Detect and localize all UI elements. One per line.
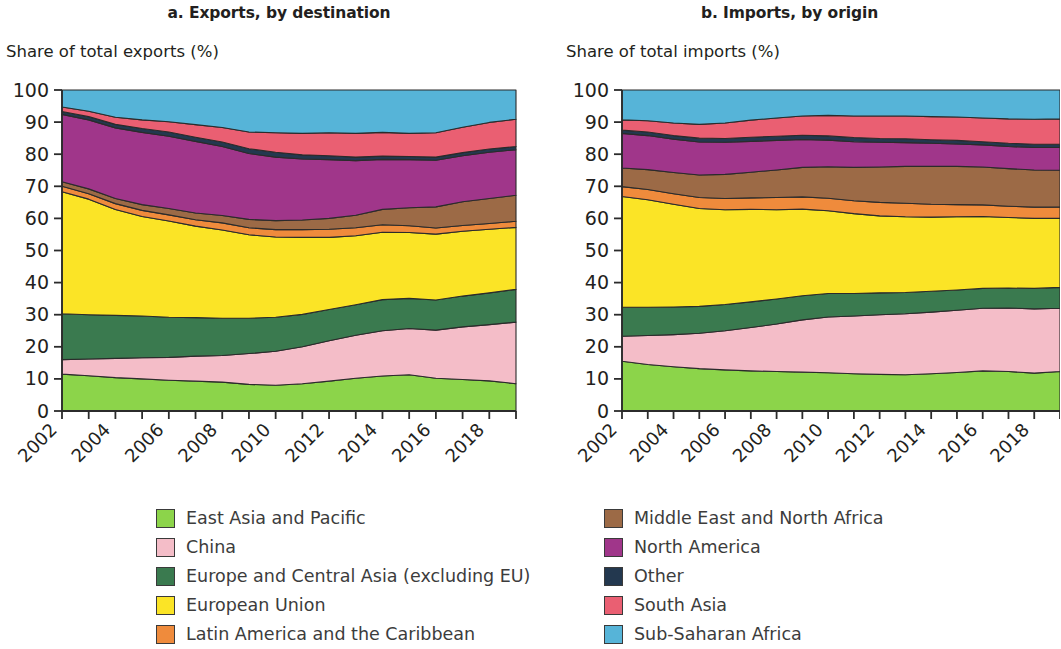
x-tick-label: 2010 <box>780 419 827 466</box>
legend-swatch-icon <box>604 567 623 586</box>
x-tick-label: 2016 <box>934 419 981 466</box>
x-tick-label: 2012 <box>281 419 328 466</box>
y-tick-label: 0 <box>597 400 609 422</box>
legend-item-label: Sub-Saharan Africa <box>634 626 802 644</box>
y-tick-label: 20 <box>25 335 49 357</box>
legend-item-label: Europe and Central Asia (excluding EU) <box>186 568 530 586</box>
y-tick-label: 30 <box>585 303 609 325</box>
panel-exports: a. Exports, by destination Share of tota… <box>0 0 540 500</box>
y-tick-label: 80 <box>25 143 49 165</box>
imports-area-chart: 0102030405060708090100200220042006200820… <box>560 78 1060 488</box>
x-tick-label: 2008 <box>174 419 221 466</box>
y-tick-label: 80 <box>585 143 609 165</box>
y-tick-label: 50 <box>585 239 609 261</box>
exports-area-chart: 0102030405060708090100200220042006200820… <box>0 78 530 488</box>
x-tick-label: 2004 <box>67 419 114 466</box>
x-tick-label: 2010 <box>227 419 274 466</box>
x-tick-label: 2018 <box>986 419 1033 466</box>
y-tick-label: 90 <box>585 111 609 133</box>
y-tick-label: 70 <box>585 175 609 197</box>
legend-item: Sub-Saharan Africa <box>604 620 884 649</box>
legend-swatch-icon <box>604 596 623 615</box>
panel-imports: b. Imports, by origin Share of total imp… <box>540 0 1061 500</box>
y-tick-label: 90 <box>25 111 49 133</box>
x-tick-label: 2014 <box>883 419 930 466</box>
legend-item: Europe and Central Asia (excluding EU) <box>156 562 530 591</box>
y-tick-label: 60 <box>585 207 609 229</box>
panel-imports-title: b. Imports, by origin <box>540 4 1061 22</box>
legend-item: South Asia <box>604 591 884 620</box>
y-tick-label: 0 <box>37 400 49 422</box>
legend-swatch-icon <box>156 567 175 586</box>
legend-item-label: Middle East and North Africa <box>634 510 884 528</box>
y-tick-label: 100 <box>573 79 609 101</box>
legend-swatch-icon <box>604 509 623 528</box>
y-tick-label: 100 <box>13 79 49 101</box>
legend-item-label: China <box>186 539 236 557</box>
legend-item-label: Other <box>634 568 684 586</box>
legend-column-left: East Asia and PacificChinaEurope and Cen… <box>156 504 530 649</box>
y-tick-label: 70 <box>25 175 49 197</box>
legend-swatch-icon <box>156 596 175 615</box>
panel-exports-title: a. Exports, by destination <box>0 4 540 22</box>
legend-swatch-icon <box>604 625 623 644</box>
legend-item: North America <box>604 533 884 562</box>
legend-swatch-icon <box>156 538 175 557</box>
panel-imports-axis-title: Share of total imports (%) <box>566 42 780 61</box>
legend-item-label: Latin America and the Caribbean <box>186 626 475 644</box>
panel-exports-axis-title: Share of total exports (%) <box>6 42 219 61</box>
x-tick-label: 2002 <box>14 419 61 466</box>
y-tick-label: 10 <box>25 367 49 389</box>
legend-item-label: South Asia <box>634 597 727 615</box>
legend-item: Middle East and North Africa <box>604 504 884 533</box>
chart-legend: East Asia and PacificChinaEurope and Cen… <box>0 500 1061 649</box>
x-tick-label: 2008 <box>728 419 775 466</box>
y-tick-label: 40 <box>25 271 49 293</box>
y-tick-label: 60 <box>25 207 49 229</box>
legend-item: European Union <box>156 591 530 620</box>
x-tick-label: 2014 <box>334 419 381 466</box>
legend-item-label: European Union <box>186 597 325 615</box>
legend-swatch-icon <box>156 509 175 528</box>
x-tick-label: 2012 <box>831 419 878 466</box>
x-tick-label: 2016 <box>387 419 434 466</box>
x-tick-label: 2018 <box>441 419 488 466</box>
panel-imports-plot: 0102030405060708090100200220042006200820… <box>560 78 1060 488</box>
y-tick-label: 30 <box>25 303 49 325</box>
legend-swatch-icon <box>156 625 175 644</box>
legend-item: East Asia and Pacific <box>156 504 530 533</box>
panel-exports-plot: 0102030405060708090100200220042006200820… <box>0 78 530 488</box>
x-tick-label: 2006 <box>120 419 167 466</box>
charts-container: a. Exports, by destination Share of tota… <box>0 0 1061 500</box>
legend-item: China <box>156 533 530 562</box>
x-tick-label: 2004 <box>625 419 672 466</box>
y-tick-label: 10 <box>585 367 609 389</box>
legend-item-label: North America <box>634 539 761 557</box>
legend-item: Other <box>604 562 884 591</box>
legend-swatch-icon <box>604 538 623 557</box>
x-tick-label: 2002 <box>574 419 621 466</box>
y-tick-label: 40 <box>585 271 609 293</box>
y-tick-label: 50 <box>25 239 49 261</box>
x-tick-label: 2006 <box>677 419 724 466</box>
legend-item-label: East Asia and Pacific <box>186 510 366 528</box>
legend-column-right: Middle East and North AfricaNorth Americ… <box>604 504 884 649</box>
y-tick-label: 20 <box>585 335 609 357</box>
legend-item: Latin America and the Caribbean <box>156 620 530 649</box>
